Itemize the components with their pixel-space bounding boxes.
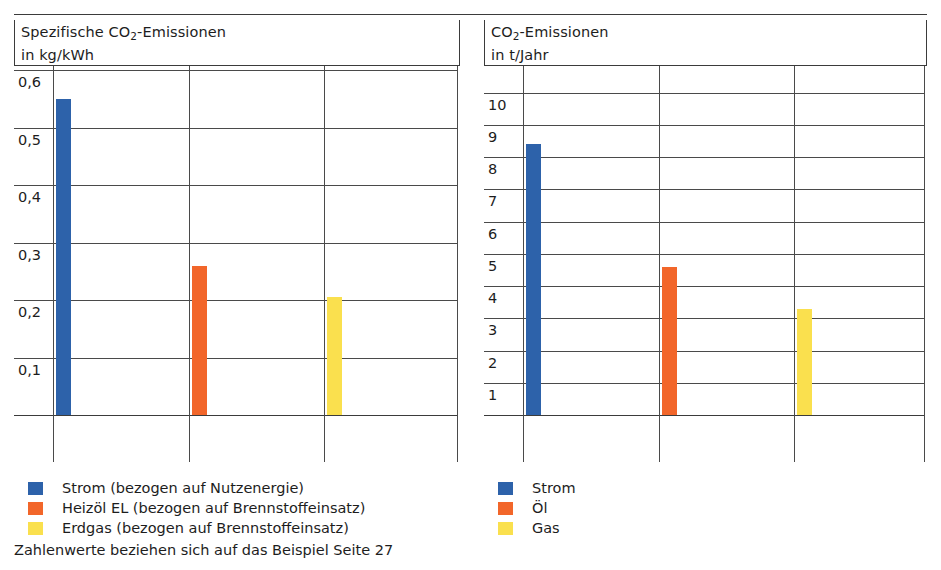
legend-item: Erdgas (bezogen auf Brennstoffeinsatz) xyxy=(14,518,474,538)
legend-label: Strom (bezogen auf Nutzenergie) xyxy=(62,478,304,498)
category-divider xyxy=(324,66,325,462)
y-axis-tick-label: 5 xyxy=(488,258,497,274)
axis-baseline xyxy=(484,415,925,416)
category-divider xyxy=(189,66,190,462)
bar-erdgas xyxy=(327,297,342,415)
bar-strom xyxy=(56,99,71,415)
legend-item: Heizöl EL (bezogen auf Brennstoffeinsatz… xyxy=(14,498,474,518)
category-divider xyxy=(659,66,660,462)
y-axis-tick-label: 3 xyxy=(488,322,497,338)
y-axis-tick-label: 2 xyxy=(488,355,497,371)
chart-title-left-pre: Spezifische CO xyxy=(21,24,130,40)
gridline xyxy=(484,157,925,158)
legend-label: Heizöl EL (bezogen auf Brennstoffeinsatz… xyxy=(62,498,365,518)
chart-title-left: Spezifische CO2-Emissionenin kg/kWh xyxy=(21,23,226,65)
chart-title-right-post: -Emissionen xyxy=(520,24,609,40)
plot-area-right: 12345678910 xyxy=(484,66,927,462)
legend-label: Strom xyxy=(532,478,576,498)
gridline xyxy=(14,358,458,359)
gridline xyxy=(484,318,925,319)
y-axis-tick-label: 1 xyxy=(488,387,497,403)
gridline xyxy=(484,351,925,352)
legend-swatch-gas xyxy=(498,522,513,535)
gridline xyxy=(484,286,925,287)
chart-title-right: CO2-Emissionenin t/Jahr xyxy=(491,23,609,65)
gridline xyxy=(14,185,458,186)
chart-title-right-pre: CO xyxy=(491,24,513,40)
chart-title-left-post: -Emissionen xyxy=(137,24,226,40)
legend-swatch-heizöl-el-bezogen-auf-brennstoffeinsatz xyxy=(28,502,43,515)
y-axis-tick-label: 9 xyxy=(488,129,497,145)
category-divider xyxy=(523,66,524,462)
gridline xyxy=(484,125,925,126)
legend-item: Gas xyxy=(484,518,784,538)
footnote: Zahlenwerte beziehen sich auf das Beispi… xyxy=(14,540,393,560)
figure-canvas: Spezifische CO2-Emissionenin kg/kWh 0,10… xyxy=(0,0,941,570)
legend-item: Strom (bezogen auf Nutzenergie) xyxy=(14,478,474,498)
bar-heiz-l-el xyxy=(192,266,207,416)
gridline xyxy=(484,222,925,223)
legend-right: StromÖlGas xyxy=(484,478,784,538)
legend-swatch-strom xyxy=(498,482,513,495)
y-axis-tick-label: 0,1 xyxy=(18,362,41,378)
y-axis-tick-label: 0,5 xyxy=(18,132,41,148)
legend-left: Strom (bezogen auf Nutzenergie)Heizöl EL… xyxy=(14,478,474,538)
y-axis-tick-label: 7 xyxy=(488,193,497,209)
axis-baseline xyxy=(14,415,458,416)
y-axis-tick-label: 0,4 xyxy=(18,189,41,205)
chart-title-box-right: CO2-Emissionenin t/Jahr xyxy=(484,20,927,66)
gridline xyxy=(484,189,925,190)
chart-title-right-subscript: 2 xyxy=(513,30,520,42)
y-axis-tick-label: 4 xyxy=(488,290,497,306)
legend-item: Strom xyxy=(484,478,784,498)
bar--l xyxy=(662,267,677,415)
legend-label: Gas xyxy=(532,518,560,538)
category-divider xyxy=(457,66,458,462)
y-axis-tick-label: 0,2 xyxy=(18,304,41,320)
gridline xyxy=(14,70,458,71)
category-divider xyxy=(924,66,925,462)
chart-subtitle-right: in t/Jahr xyxy=(491,47,549,63)
gridline xyxy=(484,93,925,94)
legend-swatch-strom-bezogen-auf-nutzenergie xyxy=(28,482,43,495)
legend-label: Öl xyxy=(532,498,547,518)
gridline xyxy=(14,300,458,301)
category-divider xyxy=(794,66,795,462)
legend-swatch-öl xyxy=(498,502,513,515)
chart-subtitle-left: in kg/kWh xyxy=(21,47,94,63)
y-axis-tick-label: 8 xyxy=(488,161,497,177)
gridline xyxy=(484,383,925,384)
y-axis-tick-label: 0,6 xyxy=(18,74,41,90)
y-axis-tick-label: 0,3 xyxy=(18,247,41,263)
legend-label: Erdgas (bezogen auf Brennstoffeinsatz) xyxy=(62,518,349,538)
plot-area-left: 0,10,20,30,40,50,6 xyxy=(14,66,460,462)
category-divider xyxy=(53,66,54,462)
chart-title-box-left: Spezifische CO2-Emissionenin kg/kWh xyxy=(14,20,460,66)
bar-gas xyxy=(797,309,812,415)
bar-strom xyxy=(526,144,541,415)
gridline xyxy=(14,243,458,244)
y-axis-tick-label: 6 xyxy=(488,226,497,242)
top-rule xyxy=(14,14,927,15)
gridline xyxy=(14,128,458,129)
legend-item: Öl xyxy=(484,498,784,518)
gridline xyxy=(484,254,925,255)
y-axis-tick-label: 10 xyxy=(488,97,506,113)
legend-swatch-erdgas-bezogen-auf-brennstoffeinsatz xyxy=(28,522,43,535)
